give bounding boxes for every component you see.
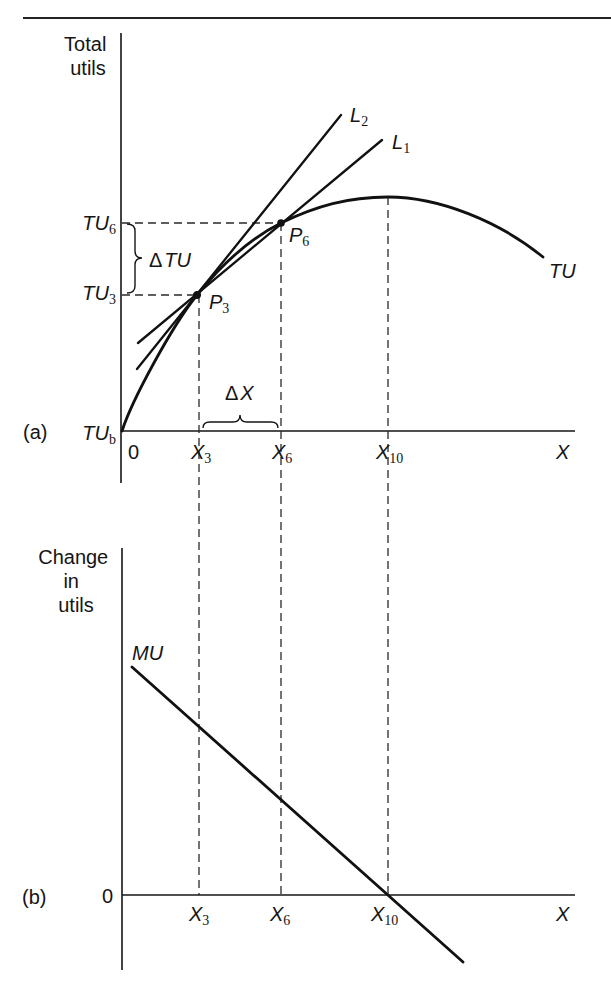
zero-label: 0 [102,885,113,907]
l2-tangent-line [137,115,341,369]
point-p6 [277,219,285,227]
p3-label: P3 [209,291,229,316]
panel-b-y-axis-label: Change in utils [38,546,114,616]
panel-a-tag: (a) [23,421,47,443]
marginal-utility-figure: Total utils TU6 TU3 TUb (a) 0 X3 [0,0,611,985]
panel-a-x-axis-label: X [555,441,570,463]
l1-secant-line [138,140,382,343]
l2-label: L2 [350,104,368,129]
p6-label: P6 [289,224,309,249]
mu-line [132,667,463,962]
delta-x-brace [203,415,278,428]
tu-curve [122,197,543,431]
tu-curve-label: TU [549,260,576,282]
panel-a-total-utility: Total utils TU6 TU3 TUb (a) 0 X3 [23,33,576,895]
tick-x3-b: X3 [188,903,209,928]
tick-tu6: TU6 [82,212,116,237]
panel-b-marginal-utility: Change in utils MU (b) 0 X3 X6 X10 X [22,546,575,970]
tick-x10-a: X10 [375,441,403,466]
tick-tub: TUb [82,422,116,447]
l1-label: L1 [392,131,410,156]
tick-tu3: TU3 [82,282,116,307]
tick-x6-a: X6 [271,441,292,466]
delta-tu-label: ΔTU [149,249,192,271]
origin-label: 0 [128,441,139,463]
tick-x3-a: X3 [190,441,211,466]
tick-x6-b: X6 [269,903,290,928]
point-p3 [193,291,200,298]
tick-x10-b: X10 [370,903,398,928]
delta-x-label: ΔX [225,382,254,404]
panel-b-x-axis-label: X [555,903,570,925]
delta-tu-brace [127,224,142,293]
panel-b-tag: (b) [22,886,46,908]
panel-a-y-axis-label: Total utils [64,33,112,79]
mu-label: MU [132,642,164,664]
